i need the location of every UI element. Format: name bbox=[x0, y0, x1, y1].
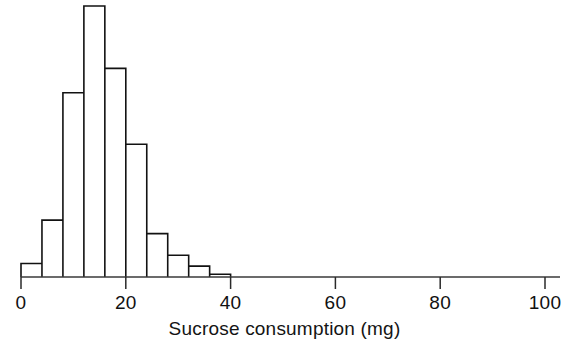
x-axis-ticks bbox=[21, 277, 545, 289]
x-tick-label-0: 0 bbox=[16, 292, 27, 314]
histogram-bars-outline bbox=[21, 6, 231, 277]
x-tick-label-60: 60 bbox=[325, 292, 347, 314]
x-tick-label-100: 100 bbox=[529, 292, 562, 314]
histogram-svg bbox=[0, 0, 569, 300]
bars-group bbox=[21, 6, 231, 277]
x-axis-title: Sucrose consumption (mg) bbox=[0, 318, 569, 340]
x-tick-label-20: 20 bbox=[115, 292, 137, 314]
x-tick-label-40: 40 bbox=[220, 292, 242, 314]
x-tick-label-80: 80 bbox=[429, 292, 451, 314]
plot-area bbox=[0, 0, 569, 300]
histogram-figure: 020406080100 Sucrose consumption (mg) bbox=[0, 0, 569, 353]
axis-group bbox=[21, 277, 560, 289]
